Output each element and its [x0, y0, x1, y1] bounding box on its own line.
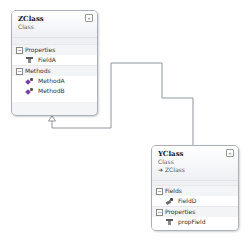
member-item[interactable]: FieldA	[12, 55, 97, 65]
member-item[interactable]: MethodB	[12, 86, 97, 96]
section-header[interactable]: −Properties	[152, 206, 238, 217]
section-title: Methods	[25, 67, 51, 74]
member-name: MethodB	[38, 87, 65, 94]
member-item[interactable]: propField	[152, 217, 238, 227]
section-methods: −Methods MethodA MethodB	[12, 65, 97, 96]
class-name: YClass	[158, 149, 233, 158]
collapse-section-icon[interactable]: −	[16, 68, 23, 75]
method-icon	[26, 88, 34, 94]
class-diagram-canvas: ZClass Class « −Properties FieldA −Metho…	[0, 0, 251, 239]
section-properties: −Properties propField	[152, 206, 238, 227]
section-header[interactable]: −Fields	[152, 185, 238, 196]
class-shape-zclass[interactable]: ZClass Class « −Properties FieldA −Metho…	[11, 10, 98, 116]
class-shape-yclass[interactable]: YClass Class ➜ ZClass « −Fields FieldD −…	[151, 145, 239, 231]
class-footer	[152, 227, 238, 231]
collapse-section-icon[interactable]: −	[156, 188, 163, 195]
member-item[interactable]: MethodA	[12, 76, 97, 86]
member-name: propField	[178, 218, 205, 225]
base-class-label: ➜ ZClass	[158, 166, 233, 174]
class-header: YClass Class ➜ ZClass «	[152, 146, 238, 181]
method-icon	[26, 78, 34, 84]
section-title: Properties	[25, 46, 55, 53]
section-title: Fields	[165, 187, 182, 194]
class-footer	[12, 96, 97, 102]
member-item[interactable]: FieldD	[152, 196, 238, 206]
collapse-section-icon[interactable]: −	[156, 209, 163, 216]
section-title: Properties	[165, 208, 195, 215]
collapse-chevron-icon[interactable]: «	[85, 14, 93, 22]
collapse-chevron-icon[interactable]: «	[226, 149, 234, 157]
section-fields: −Fields FieldD	[152, 185, 238, 206]
property-icon	[166, 219, 174, 225]
member-name: FieldA	[38, 56, 56, 63]
inheritance-arrow-icon	[49, 116, 56, 121]
property-icon	[26, 57, 34, 63]
class-header: ZClass Class «	[12, 11, 97, 38]
class-kind: Class	[158, 158, 233, 166]
member-name: FieldD	[178, 197, 196, 204]
collapse-section-icon[interactable]: −	[16, 47, 23, 54]
class-name: ZClass	[18, 14, 92, 23]
section-properties: −Properties FieldA	[12, 44, 97, 65]
class-kind: Class	[18, 23, 92, 31]
field-icon	[166, 198, 174, 204]
member-name: MethodA	[38, 77, 65, 84]
section-header[interactable]: −Properties	[12, 44, 97, 55]
section-header[interactable]: −Methods	[12, 65, 97, 76]
